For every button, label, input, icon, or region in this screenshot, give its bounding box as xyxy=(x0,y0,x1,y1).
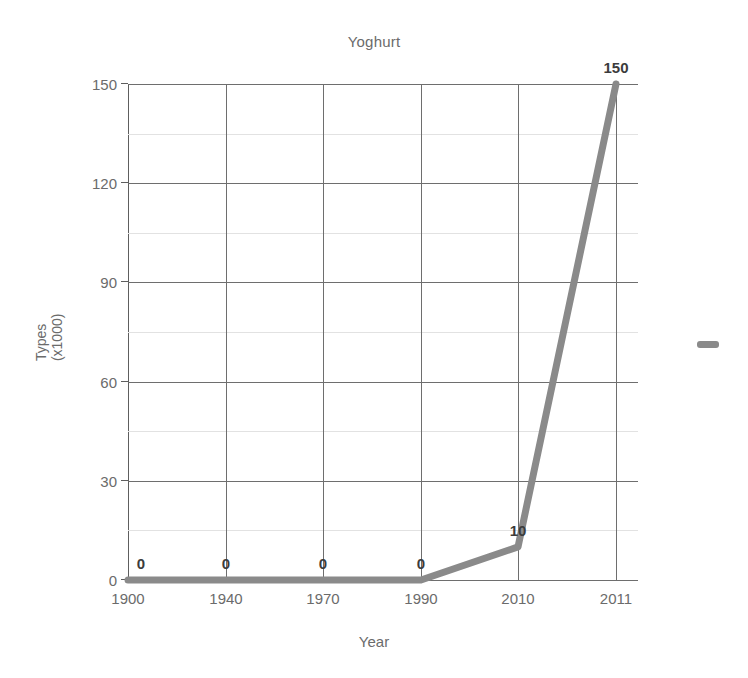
chart-title: Yoghurt xyxy=(0,33,748,50)
y-tick-label-60: 60 xyxy=(100,373,117,390)
y-tick-mark-30 xyxy=(121,480,128,481)
x-tick-label-1990: 1990 xyxy=(404,590,437,607)
y-axis-title-line2: (x1000) xyxy=(49,331,65,361)
series-line xyxy=(128,84,638,580)
data-label-1990: 0 xyxy=(417,555,425,572)
data-label-1970: 0 xyxy=(319,555,327,572)
plot-area: 0306090120150 190019401970199020102011 0… xyxy=(128,84,638,580)
x-tick-label-2010: 2010 xyxy=(501,590,534,607)
y-axis-title: Types (x1000) xyxy=(33,331,65,361)
y-axis-title-line1: Types xyxy=(33,331,49,361)
legend-swatch-series-1 xyxy=(697,341,719,348)
y-tick-label-30: 30 xyxy=(100,472,117,489)
y-tick-label-90: 90 xyxy=(100,274,117,291)
y-tick-label-120: 120 xyxy=(92,175,117,192)
y-tick-mark-90 xyxy=(121,281,128,282)
x-tick-label-2011: 2011 xyxy=(600,590,632,607)
legend xyxy=(697,341,721,351)
data-label-2010: 10 xyxy=(510,522,527,539)
y-tick-label-0: 0 xyxy=(109,572,117,589)
x-tick-label-1970: 1970 xyxy=(306,590,339,607)
y-tick-mark-150 xyxy=(121,83,128,84)
y-tick-label-150: 150 xyxy=(92,76,117,93)
y-tick-mark-60 xyxy=(121,381,128,382)
data-label-2011: 150 xyxy=(603,59,628,76)
line-chart: Yoghurt 0306090120150 190019401970199020… xyxy=(0,0,748,678)
data-label-1900: 0 xyxy=(137,555,145,572)
x-tick-label-1900: 1900 xyxy=(111,590,144,607)
x-axis-title: Year xyxy=(0,633,748,650)
data-label-1940: 0 xyxy=(222,555,230,572)
x-tick-label-1940: 1940 xyxy=(209,590,242,607)
series-polyline xyxy=(128,84,616,580)
y-tick-mark-120 xyxy=(121,182,128,183)
